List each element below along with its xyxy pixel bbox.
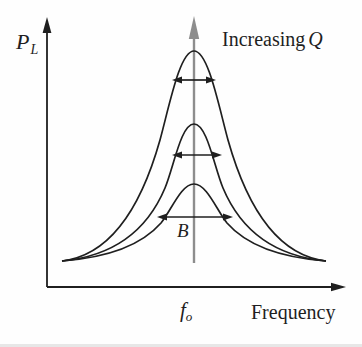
- q-symbol: Q: [305, 28, 322, 50]
- x-axis-arrowhead-icon: [331, 283, 346, 291]
- plot-canvas: [0, 0, 362, 347]
- x-axis-label: Frequency: [251, 302, 335, 322]
- center-frequency-label: fo: [180, 300, 192, 321]
- resonance-curves-figure: PL IncreasingQ B fo Frequency: [0, 0, 362, 347]
- center-frequency-subscript: o: [186, 309, 193, 324]
- center-frequency-arrowhead-icon: [189, 16, 199, 39]
- increasing-q-annotation: IncreasingQ: [222, 29, 323, 49]
- bandwidth-arrow-medium-q: [172, 151, 222, 158]
- y-axis-arrowhead-icon: [43, 17, 52, 33]
- y-axis-label-subscript: L: [30, 42, 38, 57]
- y-axis-label: PL: [16, 31, 37, 53]
- bandwidth-label: B: [177, 221, 189, 240]
